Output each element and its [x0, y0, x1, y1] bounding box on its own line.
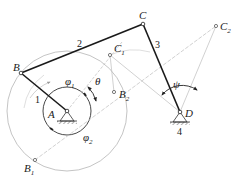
- line-c2-d: [180, 26, 216, 112]
- label-psi: ψ: [173, 78, 180, 90]
- label-phi2: φ2: [83, 131, 93, 146]
- joint-a: [65, 109, 69, 113]
- label-c1: C1: [114, 42, 125, 57]
- label-b2: B2: [119, 88, 130, 103]
- joint-c: [141, 22, 145, 26]
- label-link-3: 3: [155, 39, 160, 50]
- joint-b1: [33, 158, 36, 161]
- joint-c2: [214, 24, 217, 27]
- label-theta: θ: [95, 75, 101, 87]
- label-c2: C2: [220, 20, 231, 35]
- label-c: C: [139, 9, 147, 21]
- theta-arc: [88, 87, 96, 101]
- label-link-4: 4: [177, 126, 182, 137]
- b-inner-arcs: [30, 82, 50, 98]
- label-a: A: [47, 108, 55, 120]
- phi-arrow-mark-2: [50, 128, 53, 130]
- link-3-rocker: [143, 24, 180, 112]
- four-bar-linkage-diagram: A B C D C1 C2 B1 B2 1 2 3 4 φ1 φ2 θ ψ: [0, 0, 237, 177]
- label-b1: B1: [24, 162, 34, 177]
- label-link-2: 2: [77, 38, 82, 49]
- label-b: B: [13, 61, 20, 73]
- label-phi1: φ1: [65, 75, 75, 90]
- joint-d: [178, 110, 182, 114]
- b-inner-arc-2: [24, 75, 44, 108]
- joint-b2: [112, 90, 115, 93]
- label-link-1: 1: [35, 94, 40, 105]
- joint-b: [19, 71, 23, 75]
- phi-arrow-mark: [84, 93, 86, 96]
- joint-c1: [108, 53, 111, 56]
- label-d: D: [184, 107, 193, 119]
